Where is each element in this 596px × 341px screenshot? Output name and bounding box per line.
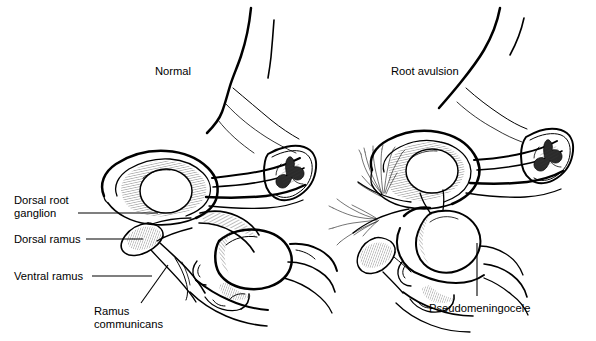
label-ventral-ramus-text: Ventral ramus xyxy=(14,270,83,282)
label-pseudomeningocele-text: Pseudomeningocele xyxy=(429,302,530,314)
panel-title-normal: Normal xyxy=(155,65,191,77)
label-ramus-communicans-line1: Ramus xyxy=(94,305,130,317)
figure-root-avulsion-diagram: Normal xyxy=(0,0,596,341)
label-ramus-communicans-line2: communicans xyxy=(94,318,163,330)
panel-title-root-avulsion: Root avulsion xyxy=(391,65,459,77)
illustration-canvas: Normal xyxy=(0,0,596,341)
label-dorsal-ramus-text: Dorsal ramus xyxy=(14,233,81,245)
label-dorsal-root-ganglion-line2: ganglion xyxy=(14,207,56,219)
label-dorsal-root-ganglion-line1: Dorsal root xyxy=(14,194,70,206)
